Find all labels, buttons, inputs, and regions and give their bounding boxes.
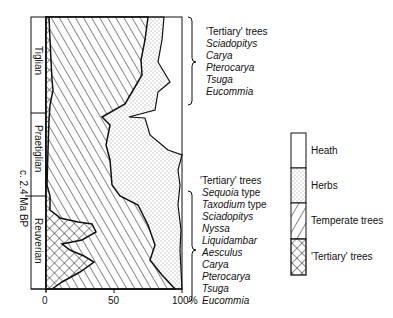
upper-brace xyxy=(188,17,196,105)
taxon: Pterocarya xyxy=(200,271,267,283)
taxon: Eucommia xyxy=(206,86,268,98)
taxon: Taxodium xyxy=(202,199,245,210)
taxon: Carya xyxy=(200,259,267,271)
legend-label-herbs: Herbs xyxy=(311,180,338,191)
legend-swatch-heath xyxy=(291,133,306,168)
legend-swatch-herbs xyxy=(291,168,306,203)
legend-swatch-temperate xyxy=(291,203,306,239)
taxon: Carya xyxy=(206,50,268,62)
taxon: Sciadopitys xyxy=(206,38,268,50)
lower-brace xyxy=(188,191,196,302)
upper-taxa-header: 'Tertiary' trees xyxy=(206,26,268,38)
taxon: Liquidambar xyxy=(200,235,267,247)
x-tick-0: 0 xyxy=(42,295,48,306)
legend-swatch-tertiary xyxy=(291,239,306,275)
stage-label-praetiglian: Praetiglian xyxy=(33,125,44,172)
x-tick-50: 50 xyxy=(108,295,119,306)
boundary-label: c. 2.4 Ma BP xyxy=(18,170,29,227)
upper-taxa-list: 'Tertiary' trees Sciadopitys Carya Ptero… xyxy=(206,26,268,98)
pollen-diagram xyxy=(0,0,393,318)
legend-label-temperate: Temperate trees xyxy=(311,215,383,226)
taxon: Sequoia xyxy=(202,187,239,198)
taxon: Aesculus xyxy=(200,247,267,259)
legend-label-tertiary: 'Tertiary' trees xyxy=(311,251,373,262)
taxon: Sciadopitys xyxy=(200,211,267,223)
lower-taxa-header: 'Tertiary' trees xyxy=(200,175,267,187)
taxon: Tsuga xyxy=(206,74,268,86)
lower-taxa-list: 'Tertiary' trees Sequoia type Taxodium t… xyxy=(200,175,267,307)
taxon: Pterocarya xyxy=(206,62,268,74)
taxon-suffix: type xyxy=(239,187,261,198)
stage-label-tiglian: Tiglian xyxy=(33,46,44,75)
taxon: Eucommia xyxy=(200,295,267,307)
legend-label-heath: Heath xyxy=(311,145,338,156)
stage-label-reuverian: Reuverian xyxy=(33,218,44,264)
taxon-suffix: type xyxy=(245,199,267,210)
taxon: Tsuga xyxy=(200,283,267,295)
x-tick-100: 100% xyxy=(172,295,198,306)
taxon: Nyssa xyxy=(200,223,267,235)
